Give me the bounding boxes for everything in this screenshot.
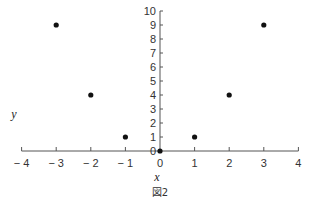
x-tick-label: − 1 (118, 157, 134, 169)
data-point (157, 148, 162, 153)
data-point (54, 22, 59, 27)
x-tick-label: 0 (157, 157, 163, 169)
y-tick-label: 3 (150, 103, 156, 115)
y-axis: 012345678910 (144, 5, 163, 157)
x-tick-label: − 2 (83, 157, 99, 169)
data-point (88, 92, 93, 97)
y-tick-label: 4 (150, 89, 156, 101)
data-point (261, 22, 266, 27)
x-axis-title: x (153, 170, 160, 184)
x-tick-label: − 4 (14, 157, 30, 169)
x-tick-label: 1 (192, 157, 198, 169)
y-tick-label: 2 (150, 117, 156, 129)
scatter-chart: − 4− 3− 2− 101234 012345678910 x y 図2 (0, 0, 313, 207)
data-point (123, 134, 128, 139)
y-tick-label: 0 (150, 145, 156, 157)
y-tick-label: 8 (150, 33, 156, 45)
y-tick-label: 6 (150, 61, 156, 73)
y-tick-label: 10 (144, 5, 156, 17)
x-tick-label: 3 (261, 157, 267, 169)
y-tick-label: 7 (150, 47, 156, 59)
y-tick-label: 5 (150, 75, 156, 87)
y-tick-label: 9 (150, 19, 156, 31)
data-point (192, 134, 197, 139)
data-point (227, 92, 232, 97)
figure-caption: 図2 (152, 187, 168, 198)
x-tick-label: 2 (226, 157, 232, 169)
x-tick-label: 4 (295, 157, 301, 169)
y-tick-label: 1 (150, 131, 156, 143)
x-tick-label: − 3 (48, 157, 64, 169)
y-axis-title: y (10, 107, 17, 121)
